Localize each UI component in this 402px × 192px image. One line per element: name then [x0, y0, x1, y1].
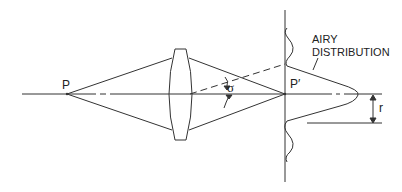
ray-upper-out	[189, 58, 285, 94]
airy-label-line1: AIRY	[312, 34, 337, 45]
radius-arrowhead-top	[370, 95, 376, 100]
airy-side-lobe-upper	[285, 28, 293, 66]
dashed-ray	[190, 64, 285, 94]
image-point-label: P′	[290, 79, 300, 90]
ray-lower-out	[189, 94, 285, 130]
radius-label: r	[379, 103, 383, 114]
ray-upper-in	[67, 58, 172, 94]
label-leader	[313, 58, 318, 70]
ray-lower-in	[67, 94, 172, 130]
angle-arrowhead-lower	[226, 95, 232, 99]
radius-arrowhead-bottom	[370, 118, 376, 123]
object-point-label: P	[62, 80, 70, 91]
object-point-dot	[66, 93, 68, 95]
airy-label-line2: DISTRIBUTION	[312, 47, 390, 58]
angle-label: σ	[227, 82, 234, 93]
image-point-dot	[284, 93, 286, 95]
optics-diagram	[0, 0, 402, 192]
airy-side-lobe-lower	[285, 121, 293, 162]
